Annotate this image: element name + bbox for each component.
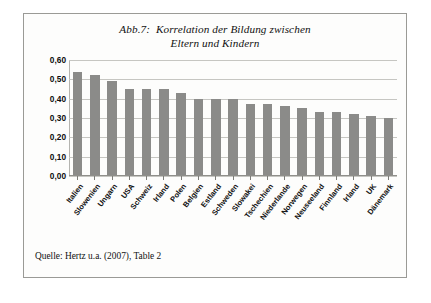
bar	[159, 89, 168, 176]
bar-slot	[190, 60, 207, 176]
bar	[228, 99, 237, 176]
bar-series	[69, 60, 397, 176]
bar	[332, 112, 341, 176]
bar-slot	[293, 60, 310, 176]
bar	[90, 75, 99, 176]
bar-slot	[138, 60, 155, 176]
y-axis-tick-label: 0,10	[50, 152, 66, 162]
bar-slot	[345, 60, 362, 176]
bar	[384, 118, 393, 176]
y-axis-tick-label: 0,60	[50, 55, 66, 65]
y-axis-tick-label: 0,20	[50, 132, 66, 142]
bar-slot	[86, 60, 103, 176]
category-label: UK	[364, 182, 378, 196]
bar	[73, 72, 82, 176]
x-axis-labels: ItalienSlowenienUngarnUSASchweizIrlandPo…	[69, 180, 397, 235]
bar	[263, 104, 272, 176]
bar-slot	[224, 60, 241, 176]
bar	[315, 112, 324, 176]
source-note: Quelle: Hertz u.a. (2007), Table 2	[35, 251, 161, 261]
y-axis-tick-label: 0,40	[50, 94, 66, 104]
x-label-slot: Finnland	[328, 180, 345, 235]
bar-slot	[276, 60, 293, 176]
bar	[107, 81, 116, 176]
bar-slot	[380, 60, 397, 176]
bar-slot	[121, 60, 138, 176]
y-axis-tick-label: 0,30	[50, 113, 66, 123]
bar	[280, 106, 289, 176]
bar-slot	[104, 60, 121, 176]
bar	[194, 99, 203, 176]
bar	[246, 104, 255, 176]
bar-slot	[328, 60, 345, 176]
bar	[176, 93, 185, 176]
x-label-slot: Ungarn	[104, 180, 121, 235]
bar	[142, 89, 151, 176]
bar-slot	[155, 60, 172, 176]
chart-axes	[69, 60, 397, 176]
bar	[366, 116, 375, 176]
y-axis-labels: 0,600,500,400,300,200,100,00	[32, 60, 66, 176]
plot-area: 0,600,500,400,300,200,100,00 ItalienSlow…	[24, 60, 408, 235]
bar-slot	[311, 60, 328, 176]
y-axis-tick-label: 0,00	[50, 171, 66, 181]
figure-container: Abb.7: Korrelation der Bildung zwischen …	[23, 13, 407, 278]
bar-slot	[363, 60, 380, 176]
x-label-slot: Irland	[155, 180, 172, 235]
y-axis-tick-label: 0,50	[50, 74, 66, 84]
bar	[211, 99, 220, 176]
x-label-slot: Schweiz	[138, 180, 155, 235]
bar-slot	[207, 60, 224, 176]
chart-title-line-2: Eltern und Kindern	[24, 37, 406, 51]
bar-slot	[259, 60, 276, 176]
bar-slot	[242, 60, 259, 176]
bar	[349, 114, 358, 176]
x-label-slot: Irland	[345, 180, 362, 235]
bar	[125, 89, 134, 176]
bar-slot	[173, 60, 190, 176]
x-label-slot: Dänemark	[380, 180, 397, 235]
chart-title-line-1: Abb.7: Korrelation der Bildung zwischen	[24, 23, 406, 37]
bar	[297, 108, 306, 176]
bar-slot	[69, 60, 86, 176]
chart-title: Abb.7: Korrelation der Bildung zwischen …	[24, 14, 406, 50]
